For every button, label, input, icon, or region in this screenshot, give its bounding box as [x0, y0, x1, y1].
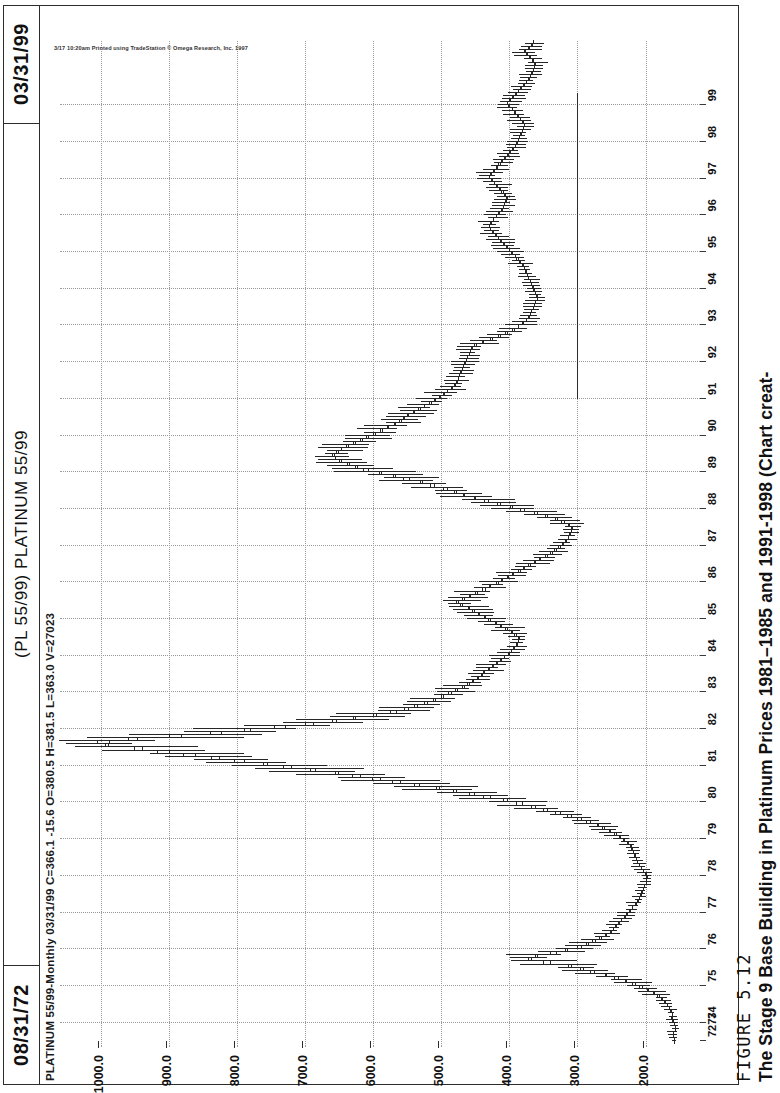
open-tick [646, 876, 647, 879]
open-tick [513, 573, 514, 576]
ohlc-bar [336, 713, 411, 714]
open-tick [500, 335, 501, 338]
open-tick [642, 891, 643, 894]
ohlc-bar [460, 343, 499, 344]
open-tick [491, 179, 492, 182]
open-tick [590, 971, 591, 974]
ohlc-bar [550, 545, 571, 546]
ohlc-bar [327, 450, 363, 451]
open-tick [625, 980, 626, 983]
open-tick [467, 356, 468, 359]
year-tick [700, 728, 706, 729]
year-tick [700, 214, 706, 215]
open-tick [478, 613, 479, 616]
ohlc-bar [436, 493, 481, 494]
open-tick [632, 906, 633, 909]
open-tick [500, 240, 501, 243]
open-tick [500, 163, 501, 166]
ohlc-bar [424, 392, 456, 393]
year-axis-label: 77 [706, 896, 718, 908]
ohlc-bar [457, 612, 494, 613]
year-gridline [60, 398, 700, 399]
year-axis-label: 93 [706, 309, 718, 321]
open-tick [571, 527, 572, 530]
open-tick [484, 616, 485, 619]
ohlc-bar [445, 383, 462, 384]
open-tick [627, 842, 628, 845]
open-tick [375, 433, 376, 436]
ohlc-bar [628, 850, 640, 851]
open-tick [602, 827, 603, 830]
ohlc-bar [411, 487, 463, 488]
open-tick [530, 280, 531, 283]
open-tick [484, 671, 485, 674]
year-axis-label: 81 [706, 750, 718, 762]
open-tick [623, 839, 624, 842]
open-tick [529, 316, 530, 319]
ohlc-bar [150, 753, 244, 754]
support-trendline[interactable] [577, 93, 578, 399]
open-tick [521, 133, 522, 136]
ohlc-bar [479, 337, 509, 338]
open-tick [181, 735, 182, 738]
open-tick [524, 124, 525, 127]
open-tick [514, 111, 515, 114]
open-tick [636, 903, 637, 906]
ohlc-bar [446, 376, 465, 377]
ohlc-bar [398, 407, 430, 408]
year-axis-label: 86 [706, 566, 718, 578]
year-gridline [60, 361, 700, 362]
ohlc-bar [490, 208, 509, 209]
tradestation-chart[interactable]: 08/31/72 (PL 55/99) PLATINUM 55/99 03/31… [0, 0, 742, 1087]
open-tick [673, 1032, 674, 1035]
ohlc-bar [558, 967, 594, 968]
plot-area[interactable]: 7273747576777879808182838485868788899091… [60, 41, 700, 1047]
open-tick [627, 913, 628, 916]
open-tick [528, 277, 529, 280]
ohlc-bar [59, 740, 155, 741]
open-tick [504, 203, 505, 206]
year-gridline [60, 288, 700, 289]
year-gridline [60, 1022, 700, 1023]
ohlc-bar [493, 578, 515, 579]
price-tick [98, 1041, 100, 1048]
ohlc-bar [400, 410, 437, 411]
open-tick [478, 677, 479, 680]
price-gridline [373, 41, 374, 1047]
open-tick [503, 799, 504, 802]
ohlc-bar [489, 184, 512, 185]
year-tick [700, 435, 706, 436]
open-tick [341, 448, 342, 451]
open-tick [464, 598, 465, 601]
ohlc-bar [232, 765, 327, 766]
open-tick [513, 148, 514, 151]
open-tick [516, 803, 517, 806]
open-tick [334, 454, 335, 457]
ohlc-bar [500, 649, 525, 650]
ohlc-bar [512, 52, 535, 53]
open-tick [401, 420, 402, 423]
year-tick [700, 875, 706, 876]
ohlc-bar [516, 563, 549, 564]
price-tick [234, 1041, 236, 1048]
year-axis-label: 74 [706, 1006, 718, 1018]
open-tick [535, 301, 536, 304]
open-tick [639, 864, 640, 867]
price-tick [643, 1041, 645, 1048]
ohlc-bar [659, 1003, 671, 1004]
ohlc-bar [526, 71, 541, 72]
ohlc-bar [494, 162, 514, 163]
ohlc-bar [517, 126, 534, 127]
ohlc-bar [511, 86, 532, 87]
ohlc-bar [357, 428, 397, 429]
ohlc-bar [129, 734, 262, 735]
open-tick [568, 965, 569, 968]
open-tick [493, 665, 494, 668]
ohlc-bar [325, 453, 348, 454]
open-tick [525, 50, 526, 53]
open-tick [492, 338, 493, 341]
ohlc-bar [316, 462, 366, 463]
ohlc-bar [378, 710, 430, 711]
open-tick [512, 108, 513, 111]
